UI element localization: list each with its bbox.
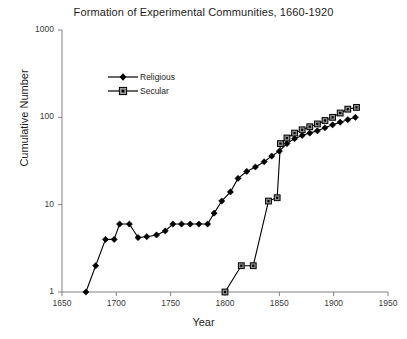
data-point-diamond [111,236,117,242]
x-axis-tick-label: 1950 [368,298,407,308]
data-point-diamond [337,119,343,125]
data-point-square [337,110,343,116]
data-point-square [250,263,256,269]
x-axis-tick-label: 1650 [42,298,82,308]
data-point-square [314,121,320,127]
data-point-diamond [205,221,211,227]
series-secular [222,104,359,294]
legend-item-secular: Secular [108,84,175,98]
data-point-diamond [187,221,193,227]
series-line [225,107,356,292]
data-point-square [299,127,305,133]
data-point-square [307,124,313,130]
religious-series-marker-icon [108,71,138,83]
data-point-square [330,114,336,120]
series-religious [83,114,359,295]
data-point-diamond [352,114,358,120]
y-axis-tick-label: 1000 [20,24,54,34]
data-point-diamond [102,236,108,242]
data-point-diamond [211,210,217,216]
x-axis-tick-label: 1900 [314,298,354,308]
data-point-square [274,195,280,201]
data-point-diamond [252,164,258,170]
secular-series-marker-icon [108,85,138,97]
data-point-diamond [126,221,132,227]
data-point-diamond [196,221,202,227]
x-axis-tick-label: 1750 [151,298,191,308]
plot-area [0,0,407,339]
data-point-diamond [345,117,351,123]
data-point-square [322,118,328,124]
data-point-diamond [314,128,320,134]
data-point-diamond [144,234,150,240]
data-point-diamond [299,132,305,138]
data-point-diamond [307,130,313,136]
data-point-diamond [329,122,335,128]
legend-item-religious: Religious [108,70,175,84]
data-point-diamond [83,289,89,295]
data-point-square [266,198,272,204]
data-point-square [238,263,244,269]
y-axis-tick-label: 1 [20,286,54,296]
chart-legend: Religious Secular [108,70,175,98]
data-point-square [278,141,284,147]
data-point-diamond [322,125,328,131]
data-point-square [354,104,360,110]
data-point-diamond [93,263,99,269]
x-axis-tick-label: 1800 [205,298,245,308]
chart-container: Formation of Experimental Communities, 1… [0,0,407,339]
data-point-diamond [153,232,159,238]
data-point-diamond [178,221,184,227]
y-axis-tick-label: 10 [20,199,54,209]
data-point-square [292,130,298,136]
x-axis-tick-label: 1850 [259,298,299,308]
data-point-square [222,289,228,295]
data-point-diamond [135,234,141,240]
chart-title: Formation of Experimental Communities, 1… [0,6,407,18]
data-point-diamond [116,221,122,227]
series-line [86,117,355,292]
x-axis-tick-label: 1700 [96,298,136,308]
legend-label-religious: Religious [140,72,175,82]
y-axis-tick-label: 100 [20,111,54,121]
x-axis-label: Year [0,316,407,328]
data-point-square [345,106,351,112]
legend-label-secular: Secular [140,86,169,96]
data-point-square [284,135,290,141]
